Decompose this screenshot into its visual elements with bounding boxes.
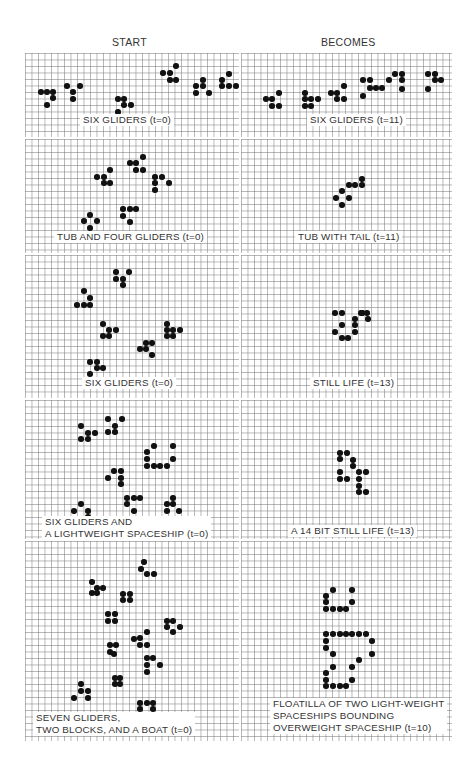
live-cell [137, 642, 143, 648]
live-cell [138, 566, 144, 572]
live-cell [330, 683, 336, 689]
live-cell [164, 333, 170, 339]
live-cell [339, 202, 345, 208]
live-cell [350, 463, 356, 469]
live-cell [121, 96, 127, 102]
live-cell [365, 316, 371, 322]
live-cell [131, 636, 137, 642]
live-cell [328, 90, 334, 96]
live-cell [85, 688, 91, 694]
live-cell [150, 655, 156, 661]
live-cell [364, 310, 370, 316]
live-cell [337, 631, 343, 637]
live-cell [87, 371, 93, 377]
live-cell [167, 70, 173, 76]
live-cell [87, 295, 93, 301]
live-cell [100, 585, 106, 591]
live-cell [126, 269, 132, 275]
live-cell [379, 85, 385, 91]
live-cell [339, 322, 345, 328]
live-cell [177, 624, 183, 630]
live-cell [432, 71, 438, 77]
live-cell [330, 631, 336, 637]
live-cell [101, 174, 107, 180]
live-cell [107, 642, 113, 648]
live-cell [339, 188, 345, 194]
live-cell [121, 102, 127, 108]
live-cell [94, 174, 100, 180]
live-cell [111, 468, 117, 474]
live-cell [337, 476, 343, 482]
live-cell [144, 629, 150, 635]
live-cell [352, 322, 358, 328]
header-start: START [112, 36, 147, 48]
live-cell [44, 102, 50, 108]
live-cell [124, 495, 130, 501]
live-cell [269, 96, 275, 102]
live-cell [170, 456, 176, 462]
live-cell [137, 700, 143, 706]
panel-caption: A 14 BIT STILL LIFE (t=13) [288, 525, 417, 537]
live-cell [346, 182, 352, 188]
live-cell [339, 310, 345, 316]
live-cell [166, 180, 172, 186]
live-cell [144, 571, 150, 577]
live-cell [339, 335, 345, 341]
panel-caption: FLOATILLA OF TWO LIGHT-WEIGHT SPACESHIPS… [270, 698, 447, 734]
live-cell [302, 90, 308, 96]
live-cell [141, 559, 147, 565]
live-cell [323, 677, 329, 683]
live-cell [38, 89, 44, 95]
live-cell [341, 83, 347, 89]
live-cell [100, 333, 106, 339]
live-cell [144, 449, 150, 455]
live-cell [120, 597, 126, 603]
live-cell [438, 77, 444, 83]
live-cell [64, 83, 70, 89]
live-cell [164, 624, 170, 630]
live-cell [167, 77, 173, 83]
live-cell [151, 571, 157, 577]
live-cell [144, 700, 150, 706]
live-cell [302, 103, 308, 109]
panel-caption: SIX GLIDERS AND A LIGHTWEIGHT SPACESHIP … [42, 516, 211, 540]
live-cell [119, 416, 125, 422]
live-cell [352, 316, 358, 322]
panel-caption: SIX GLIDERS (t=0) [80, 114, 174, 126]
live-cell [159, 174, 165, 180]
live-cell [333, 195, 339, 201]
live-cell [94, 359, 100, 365]
live-cell [124, 501, 130, 507]
live-cell [360, 93, 366, 99]
live-cell [332, 329, 338, 335]
live-cell [106, 327, 112, 333]
live-cell [177, 327, 183, 333]
live-cell [152, 174, 158, 180]
live-cell [87, 225, 93, 231]
live-cell [226, 83, 232, 89]
live-cell [356, 657, 362, 663]
live-cell [127, 591, 133, 597]
live-cell [87, 212, 93, 218]
live-cell [140, 167, 146, 173]
live-cell [323, 638, 329, 644]
live-cell [360, 77, 366, 83]
live-cell [78, 436, 84, 442]
live-cell [323, 645, 329, 651]
live-cell [133, 160, 139, 166]
panel-caption: SEVEN GLIDERS, TWO BLOCKS, AND A BOAT (t… [33, 712, 195, 736]
live-cell [349, 664, 355, 670]
live-cell [349, 677, 355, 683]
live-cell [117, 681, 123, 687]
live-cell [263, 96, 269, 102]
live-cell [100, 365, 106, 371]
live-cell [200, 83, 206, 89]
live-cell [94, 590, 100, 596]
live-cell [170, 618, 176, 624]
live-cell [323, 593, 329, 599]
live-cell [127, 219, 133, 225]
live-cell [170, 629, 176, 635]
live-cell [399, 71, 405, 77]
live-cell [369, 638, 375, 644]
live-cell [308, 96, 314, 102]
